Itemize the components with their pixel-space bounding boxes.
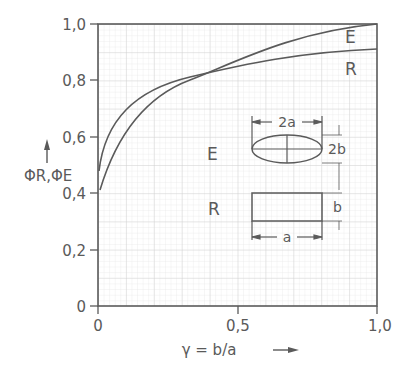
x-tick-0-5: 0,5	[226, 317, 250, 335]
y-axis-ticks	[90, 24, 98, 306]
chart-canvas: 0 0,2 0,4 0,6 0,8 1,0 0 0,5 1,0 ΦR,ΦE γ …	[0, 0, 409, 375]
y-tick-0-6: 0,6	[62, 129, 86, 147]
x-axis-ticks	[98, 306, 377, 314]
y-tick-0-2: 0,2	[62, 242, 86, 260]
x-tick-1-0: 1,0	[368, 317, 392, 335]
x-axis-arrow-icon	[273, 347, 299, 353]
y-tick-0-4: 0,4	[62, 185, 86, 203]
y-tick-0: 0	[76, 298, 86, 316]
dim-label-a: a	[283, 229, 292, 245]
dim-label-2a: 2a	[278, 114, 296, 130]
y-axis-arrow-icon	[44, 139, 50, 163]
y-axis-label: ΦR,ΦE	[24, 167, 72, 185]
dim-label-b: b	[333, 199, 342, 215]
dim-label-2b: 2b	[328, 141, 346, 157]
curve-label-R: R	[345, 59, 357, 79]
inset-label-R: R	[208, 199, 220, 219]
y-tick-1-0: 1,0	[62, 16, 86, 34]
y-tick-0-8: 0,8	[62, 72, 86, 90]
x-axis-label: γ = b/a	[182, 341, 237, 359]
curve-label-E: E	[345, 27, 356, 47]
x-tick-0: 0	[93, 317, 103, 335]
inset-label-E: E	[207, 144, 218, 164]
